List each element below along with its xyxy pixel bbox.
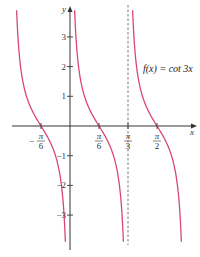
x-tick-label-denominator: 3 [126, 141, 131, 151]
y-tick-label: −2 [56, 180, 66, 190]
function-label: f(x) = cot 3x [143, 63, 193, 75]
x-tick-label-numerator: π [155, 131, 160, 141]
x-tick-label-sign: − [29, 136, 34, 146]
y-axis-label: y [61, 4, 66, 14]
y-tick-label: 1 [62, 91, 67, 101]
y-axis-arrow-icon [68, 6, 73, 12]
x-tick-label-denominator: 6 [97, 141, 102, 151]
cot-3x-graph: 321−1−2−3π6−π6π3π2 y x f(x) = cot 3x [0, 0, 200, 257]
x-tick-label-numerator: π [126, 131, 131, 141]
x-tick-label-denominator: 6 [39, 141, 44, 151]
y-tick-label: −3 [56, 210, 66, 220]
y-tick-label: −1 [56, 151, 66, 161]
y-tick-label: 3 [62, 32, 67, 42]
x-axis-label: x [189, 127, 194, 137]
x-tick-label-numerator: π [39, 131, 44, 141]
x-tick-label-numerator: π [97, 131, 102, 141]
y-tick-label: 2 [62, 62, 67, 72]
x-tick-label-denominator: 2 [155, 141, 160, 151]
